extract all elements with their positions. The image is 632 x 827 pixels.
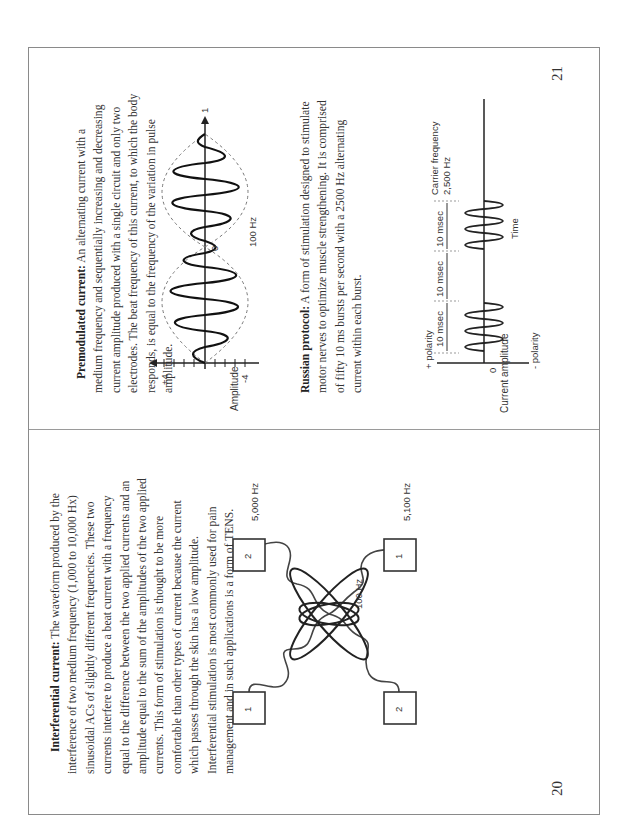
carrier-label: Carrier frequency	[429, 122, 440, 195]
russian-ylabel: Current amplitude	[499, 334, 510, 413]
electrode-label: 1	[242, 707, 253, 712]
page-number: 20	[549, 781, 566, 796]
freq-label-top: 5,100 Hz	[401, 483, 412, 521]
russian-pos-label: + polarity	[423, 330, 434, 369]
russian-zero-label: 0	[487, 368, 498, 373]
interferential-diagram	[29, 430, 601, 814]
book-spread: Interferential current: The waveform pro…	[28, 47, 600, 815]
page-20: Interferential current: The waveform pro…	[29, 430, 599, 814]
electrode-label: 2	[242, 554, 253, 559]
freq-label-bottom: 5,000 Hz	[249, 483, 260, 521]
interval-label: 10 msec	[434, 261, 445, 297]
electrode-label: 1	[393, 554, 404, 559]
interval-label: 10 msec	[434, 311, 445, 347]
electrode-label: 2	[393, 707, 404, 712]
beat-frequency-label: 100 Hz	[353, 579, 364, 609]
page-21: Premodulated current: An alternating cur…	[29, 45, 599, 430]
interval-label: 10 msec	[434, 211, 445, 247]
russian-neg-label: - polarity	[529, 333, 540, 369]
time-axis-label: Time	[509, 218, 520, 239]
carrier-value: 2,500 Hz	[441, 157, 452, 195]
page-number: 21	[549, 66, 566, 81]
